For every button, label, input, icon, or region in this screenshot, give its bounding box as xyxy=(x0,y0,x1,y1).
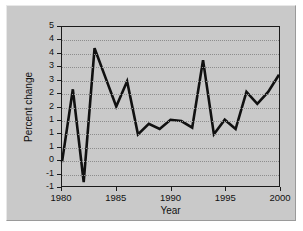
gridline-horizontal xyxy=(62,108,279,109)
y-tick-label: 4 xyxy=(49,34,54,43)
y-tick-label: 3 xyxy=(49,61,54,70)
y-tick-label: 0 xyxy=(49,155,54,164)
gridline-horizontal xyxy=(62,148,279,149)
y-tick-label: 1 xyxy=(49,142,54,151)
gridline-horizontal xyxy=(62,81,279,82)
y-tick-label: 2 xyxy=(49,88,54,97)
x-tick-label: 1980 xyxy=(50,192,71,203)
y-tick-label: 3 xyxy=(49,75,54,84)
y-tick-label: 1 xyxy=(49,128,54,137)
x-tick-mark xyxy=(225,187,226,191)
x-tick-mark xyxy=(61,187,62,191)
y-tick-label: 2 xyxy=(49,102,54,111)
gridline-horizontal xyxy=(62,67,279,68)
x-tick-mark xyxy=(280,187,281,191)
y-tick-label: 5 xyxy=(49,21,54,30)
chart-figure: Percent change -1-101112233445 198019851… xyxy=(0,0,303,231)
gridline-horizontal xyxy=(62,175,279,176)
gridline-horizontal xyxy=(62,134,279,135)
y-axis: -1-101112233445 xyxy=(7,26,61,187)
x-tick-label: 1985 xyxy=(105,192,126,203)
figure-panel: Percent change -1-101112233445 198019851… xyxy=(6,5,296,221)
y-tick-label: 4 xyxy=(49,48,54,57)
x-axis: 19801985199019952000 xyxy=(61,187,280,205)
y-tick-label: 1 xyxy=(49,115,54,124)
gridline-horizontal xyxy=(62,161,279,162)
gridline-horizontal xyxy=(62,54,279,55)
gridline-horizontal xyxy=(62,121,279,122)
plot-area xyxy=(61,26,280,187)
x-tick-mark xyxy=(116,187,117,191)
x-axis-title: Year xyxy=(61,205,280,216)
y-tick-label: -1 xyxy=(46,182,54,191)
x-tick-mark xyxy=(171,187,172,191)
gridline-horizontal xyxy=(62,94,279,95)
gridline-horizontal xyxy=(62,40,279,41)
x-tick-label: 2000 xyxy=(269,192,290,203)
x-tick-label: 1995 xyxy=(215,192,236,203)
x-tick-label: 1990 xyxy=(160,192,181,203)
y-tick-label: -1 xyxy=(46,169,54,178)
